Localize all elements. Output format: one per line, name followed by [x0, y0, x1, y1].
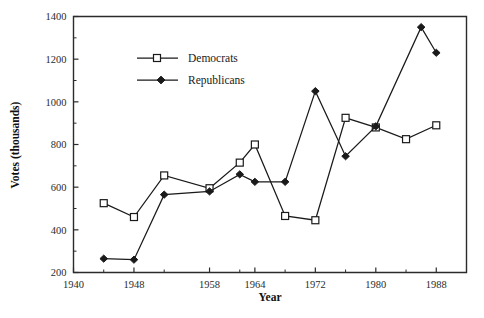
x-tick-label: 1980	[365, 279, 386, 290]
data-point	[281, 178, 289, 185]
data-point	[130, 214, 137, 221]
data-point	[130, 256, 138, 263]
data-point	[312, 88, 320, 95]
series-republicans	[100, 24, 440, 264]
y-tick-label: 1400	[46, 11, 67, 22]
data-point	[236, 171, 244, 178]
y-tick-label: 600	[51, 182, 67, 193]
x-tick-label: 1958	[199, 279, 220, 290]
y-tick-label: 800	[51, 139, 67, 150]
x-axis-tick-labels: 1940194819581964197219801988	[63, 279, 447, 290]
plot-frame	[74, 17, 467, 273]
legend-marker-republicans	[157, 76, 165, 84]
x-tick-label: 1972	[305, 279, 326, 290]
y-tick-label: 200	[51, 267, 67, 278]
data-point	[432, 49, 440, 56]
plot-border	[74, 17, 467, 273]
chart-container: 1940194819581964197219801988 20040060080…	[0, 0, 484, 318]
x-axis-title: Year	[259, 291, 282, 303]
legend-label-democrats: Democrats	[188, 52, 238, 64]
y-tick-label: 1000	[46, 97, 67, 108]
x-tick-label: 1948	[123, 279, 144, 290]
data-point	[403, 136, 410, 143]
y-axis-ticks	[74, 17, 79, 273]
data-point	[433, 122, 440, 129]
data-series-layer	[100, 24, 440, 264]
data-point	[161, 172, 168, 179]
y-tick-label: 1200	[46, 54, 67, 65]
series-path	[104, 118, 437, 220]
data-point	[312, 217, 319, 224]
y-tick-label: 400	[51, 225, 67, 236]
data-point	[100, 200, 107, 207]
data-point	[342, 114, 349, 121]
x-tick-label: 1940	[63, 279, 84, 290]
x-tick-label: 1964	[244, 279, 266, 290]
legend: Democrats Republicans	[137, 52, 245, 87]
y-axis-title: Votes (thousands)	[9, 101, 22, 188]
data-point	[251, 178, 259, 185]
data-point	[160, 191, 168, 198]
x-tick-label: 1988	[426, 279, 447, 290]
series-democrats	[100, 114, 440, 223]
data-point	[417, 24, 425, 31]
data-point	[100, 255, 108, 262]
legend-label-republicans: Republicans	[188, 74, 245, 87]
data-point	[282, 212, 289, 219]
votes-line-chart: 1940194819581964197219801988 20040060080…	[0, 0, 484, 318]
y-axis-tick-labels: 200400600800100012001400	[46, 11, 67, 278]
data-point	[236, 159, 243, 166]
legend-marker-democrats	[154, 55, 161, 62]
x-axis-ticks	[74, 268, 437, 273]
data-point	[251, 141, 258, 148]
